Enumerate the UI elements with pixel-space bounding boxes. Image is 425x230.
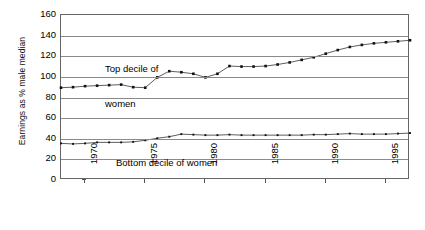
x-axis-tick-mark <box>204 179 205 183</box>
data-point-marker <box>373 133 375 135</box>
data-point-marker <box>373 42 376 45</box>
data-point-marker <box>361 44 364 47</box>
data-point-marker <box>60 86 63 89</box>
data-point-marker <box>313 134 315 136</box>
y-axis-tick-label: 40 <box>30 133 56 143</box>
data-point-marker <box>168 136 170 138</box>
y-axis-tick-label: 160 <box>30 9 56 19</box>
y-axis-tick-labels: 160140120100806040200 <box>26 0 56 230</box>
data-point-marker <box>324 52 327 55</box>
data-point-marker <box>253 134 255 136</box>
x-axis-tick-label: 1990 <box>330 143 340 183</box>
data-point-marker <box>72 86 75 89</box>
data-point-marker <box>241 134 243 136</box>
annotation-top-decile-line1: Top decile of <box>105 63 158 75</box>
x-axis-tick-label: 1985 <box>270 143 280 183</box>
data-point-marker <box>229 134 231 136</box>
data-point-marker <box>180 133 182 135</box>
gridline <box>61 36 408 37</box>
data-point-marker <box>264 65 267 68</box>
data-point-marker <box>300 59 303 62</box>
data-point-marker <box>228 65 231 68</box>
data-point-marker <box>192 72 195 75</box>
data-point-marker <box>108 141 110 143</box>
annotation-bottom-decile: Bottom decile of women <box>116 157 217 169</box>
y-axis-tick-label: 120 <box>30 50 56 60</box>
y-axis-tick-label: 80 <box>30 92 56 102</box>
data-point-marker <box>301 134 303 136</box>
data-point-marker <box>168 70 171 73</box>
data-point-marker <box>216 72 219 75</box>
y-axis-tick-label: 100 <box>30 71 56 81</box>
data-point-marker <box>240 65 243 68</box>
line-chart: Earnings as % male median 16014012010080… <box>0 0 425 230</box>
data-point-marker <box>84 142 86 144</box>
data-point-marker <box>349 133 351 135</box>
data-point-marker <box>288 61 291 64</box>
data-point-marker <box>96 84 99 87</box>
data-point-marker <box>277 134 279 136</box>
x-axis-tick-label: 1995 <box>390 143 400 183</box>
gridline <box>61 139 408 140</box>
data-point-marker <box>409 132 411 134</box>
annotation-top-decile-line2: women <box>105 98 158 110</box>
data-point-marker <box>60 142 62 144</box>
data-point-marker <box>325 134 327 136</box>
data-point-marker <box>72 143 74 145</box>
data-point-marker <box>385 133 387 135</box>
annotation-top-decile: Top decile of women <box>105 40 158 132</box>
y-axis-tick-label: 60 <box>30 112 56 122</box>
data-point-marker <box>265 134 267 136</box>
data-point-marker <box>252 65 255 68</box>
x-axis-tick-mark <box>325 179 326 183</box>
data-point-marker <box>397 40 400 43</box>
data-point-marker <box>409 39 412 42</box>
data-point-marker <box>349 46 352 49</box>
x-axis-tick-mark <box>385 179 386 183</box>
data-point-marker <box>192 134 194 136</box>
x-axis-tick-mark <box>144 179 145 183</box>
data-point-marker <box>289 134 291 136</box>
data-point-marker <box>361 133 363 135</box>
y-axis-tick-label: 20 <box>30 153 56 163</box>
data-point-marker <box>84 85 87 88</box>
data-point-marker <box>132 141 134 143</box>
y-axis-tick-label: 0 <box>30 174 56 184</box>
data-point-marker <box>337 133 339 135</box>
data-point-marker <box>276 63 279 66</box>
data-point-marker <box>204 134 206 136</box>
data-point-marker <box>385 41 388 44</box>
data-point-marker <box>217 134 219 136</box>
x-axis-tick-mark <box>265 179 266 183</box>
gridline <box>61 159 408 160</box>
x-axis-tick-label: 1970 <box>89 143 99 183</box>
data-point-marker <box>180 71 183 74</box>
data-point-marker <box>336 49 339 52</box>
data-point-marker <box>397 133 399 135</box>
data-point-marker <box>120 141 122 143</box>
x-axis-tick-mark <box>84 179 85 183</box>
y-axis-tick-label: 140 <box>30 30 56 40</box>
